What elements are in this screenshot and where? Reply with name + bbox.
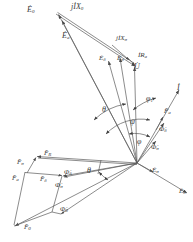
label-jIXsigma: jİXσ — [116, 35, 127, 42]
label-Phi-delta: Φ̇δ — [159, 126, 167, 133]
label-F0: F̄0 — [24, 224, 31, 231]
label-Ea: Ėa — [62, 32, 69, 40]
label-jIX0: jİX0 — [71, 3, 83, 11]
parallelogram-bottom-edge — [14, 212, 52, 226]
label-Phi-sigma-lower: Φ̇σ — [55, 182, 63, 189]
arc-theta-lower — [99, 172, 108, 180]
phasor-diagram-figure: Ė0 jİX0 Ėa jİXσ Ėδ Ėσ İRa U̇ İ F̄a Φ̇δ Φ… — [0, 0, 193, 242]
label-Fsigma: F̄σ — [17, 159, 24, 166]
label-E0: Ė0 — [27, 6, 34, 14]
label-Phi-sigma: Φ̇σ — [151, 144, 159, 151]
vector-canvas — [0, 0, 193, 242]
label-Edelta: Ėδ — [99, 55, 106, 62]
label-IRa: İRa — [138, 52, 147, 59]
label-Fdelta: F̄δ — [40, 176, 47, 183]
label-angle-theta-upper: θ — [102, 106, 106, 114]
label-Esigma: Ėσ — [117, 55, 124, 62]
vector-Fsigma — [27, 158, 36, 174]
label-Esigma-lower: Ėσ — [152, 167, 159, 174]
label-Fa-left: F̄a — [12, 175, 19, 182]
label-Fa-right: F̄a — [164, 108, 171, 115]
label-angle-phi: φ — [137, 138, 141, 146]
vector-FR-parallel — [38, 158, 137, 165]
vector-F0 — [15, 163, 137, 226]
label-Edelta-lower: Ėδ — [179, 188, 186, 195]
label-Phi-delta-lower: Φ̇δ — [64, 169, 72, 176]
label-I: İ — [177, 84, 180, 92]
label-Phi0: Φ̇0 — [60, 206, 68, 213]
vector-FR — [37, 157, 137, 164]
label-U: U̇ — [134, 63, 140, 71]
label-angle-psi: ψ — [130, 118, 135, 126]
label-FR: F̄R — [44, 150, 51, 157]
label-angle-theta-lower: θ — [87, 167, 91, 175]
label-angle-phi1: φ1 — [146, 95, 153, 103]
